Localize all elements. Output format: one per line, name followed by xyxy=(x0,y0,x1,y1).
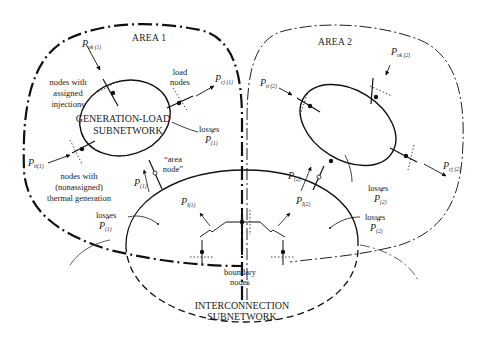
area-node-label-2: node” xyxy=(163,164,184,174)
thermal-generation-label-3: thermal generation xyxy=(47,193,112,203)
node-load-1 xyxy=(167,86,214,112)
thermal-generation-label-1: nodes with xyxy=(60,171,98,181)
symbol-p-1: P(1) xyxy=(133,177,147,190)
assigned-injections-label-1: nodes with xyxy=(49,77,87,87)
losses1-prime-leader xyxy=(172,122,198,132)
node-assigned-injection-2 xyxy=(370,65,392,104)
losses2-prime-label: losses P(2) ′ xyxy=(368,183,388,206)
area-node-link-1 xyxy=(144,160,162,192)
area2-label: AREA 2 xyxy=(318,37,352,47)
symbol-p-ok1: Pok (1) xyxy=(81,38,101,51)
assigned-injections-label-3: injections xyxy=(51,99,84,109)
symbol-p-tt2: Ptt (2) xyxy=(259,77,277,90)
boundary-nodes-label-2: nodes xyxy=(230,277,250,287)
interconnection-label-1: INTERCONNECTION xyxy=(195,300,289,311)
assigned-injections-label-2: assigned xyxy=(53,88,83,98)
losses2-prime-leader xyxy=(345,155,352,182)
symbol-p-tt1: Ptt(1) xyxy=(27,157,44,170)
load-nodes-label-1: load xyxy=(173,67,188,77)
svg-text:losses: losses xyxy=(368,183,388,193)
area1-boundary xyxy=(24,24,242,300)
symbol-p-i1: PI(1) xyxy=(180,196,196,209)
load-nodes-label-2: nodes xyxy=(170,77,190,87)
symbol-p-cj2: Pcj (2) xyxy=(442,160,461,173)
generation-load-label-2: SUBNETWORK xyxy=(93,125,163,136)
area2-boundary xyxy=(247,25,463,300)
power-system-areas-diagram: AREA 1 AREA 2 GENERATION-LOAD SUBNETWORK… xyxy=(0,0,484,350)
symbol-p-2: P(2) xyxy=(287,170,301,183)
symbol-p-ok2: Pok (2) xyxy=(390,46,410,59)
losses2-dprime-label: losses P(2) ″ xyxy=(365,212,385,235)
symbol-p-i2: PI(2) xyxy=(295,195,311,208)
interconnection-label-2: SUBNETWORK xyxy=(207,311,277,322)
generation-load-subnetwork-2 xyxy=(285,68,410,182)
thermal-generation-label-2: (nonassigned) xyxy=(55,182,103,192)
area-node-link-2 xyxy=(301,159,333,191)
symbol-p-cj1: Pcj (1) xyxy=(214,73,233,86)
area1-label: AREA 1 xyxy=(132,33,166,43)
external-area-right-arc xyxy=(360,245,418,280)
boundary-nodes-label-1: boundary xyxy=(224,267,257,277)
node-load-2 xyxy=(390,145,446,176)
generation-load-label-1: GENERATION-LOAD xyxy=(76,113,170,124)
losses1-dprime-label: losses P(1) ″ xyxy=(96,210,116,233)
losses1-prime-label: losses P(1) ′ xyxy=(199,124,219,147)
svg-text:losses: losses xyxy=(199,124,219,134)
area-node-label-1: “area xyxy=(164,154,182,164)
